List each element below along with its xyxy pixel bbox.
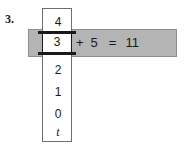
column-cell-value: 1 [43,81,73,103]
column-cell-value: 4 [43,11,73,33]
problem-number-label: 3. [5,13,14,26]
equation-equals-sign: = [109,35,117,50]
column-cell-value: 2 [43,59,73,81]
column-cell-value: t [43,121,73,143]
equation-operator: + [76,35,84,50]
equation-expression: +5=11 [76,30,139,56]
selected-cell-rule-top [38,31,76,34]
selected-cell-rule-bottom [38,52,76,55]
problem-figure: 3. 4 3 2 1 0 t 3 +5=11 [0,0,187,149]
equation-addend: 5 [91,35,98,50]
selected-cell-value: 3 [42,33,72,52]
value-column: 4 3 2 1 0 t [42,8,72,142]
equation-result: 11 [125,35,139,50]
